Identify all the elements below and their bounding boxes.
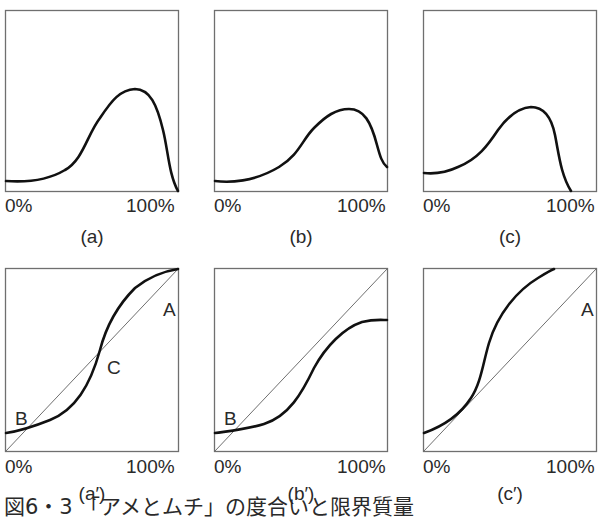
- point-label-a: A: [163, 300, 176, 319]
- chart-b: [214, 10, 388, 192]
- panel-label-c-prime: (c′): [450, 484, 570, 503]
- distribution-curve: [424, 107, 571, 191]
- figure-caption: 図6・3 「アメとムチ」の度合いと限界質量: [4, 497, 414, 518]
- chart-b-prime: [214, 268, 388, 452]
- point-label-c: C: [107, 358, 121, 377]
- chart-c-prime: [423, 268, 597, 452]
- cumulative-curve: [6, 269, 178, 433]
- panel-label-a: (a): [32, 227, 152, 246]
- plot-frame: [424, 11, 597, 192]
- diagonal-line: [215, 269, 387, 451]
- panel-a: [5, 10, 179, 192]
- x-tick-0: 0%: [423, 196, 450, 215]
- cumulative-curve: [424, 269, 554, 433]
- panel-a-prime: A C B: [5, 268, 179, 452]
- panel-label-c: (c): [450, 227, 570, 246]
- x-tick-100: 100%: [126, 196, 175, 215]
- x-tick-100: 100%: [337, 457, 386, 476]
- point-label-b: B: [15, 409, 28, 428]
- diagonal-line: [6, 269, 178, 451]
- distribution-curve: [6, 89, 178, 191]
- x-tick-100: 100%: [337, 196, 386, 215]
- cumulative-curve: [215, 320, 387, 433]
- panel-c-prime: A: [423, 268, 597, 452]
- distribution-curve: [215, 109, 387, 182]
- x-tick-0: 0%: [423, 457, 450, 476]
- x-tick-0: 0%: [214, 196, 241, 215]
- panel-b: [214, 10, 388, 192]
- plot-frame: [215, 11, 388, 192]
- chart-c: [423, 10, 597, 192]
- chart-a: [5, 10, 179, 192]
- panel-c: [423, 10, 597, 192]
- panel-label-b: (b): [241, 227, 361, 246]
- panel-b-prime: B: [214, 268, 388, 452]
- x-tick-100: 100%: [126, 457, 175, 476]
- point-label-a: A: [581, 300, 594, 319]
- x-tick-100: 100%: [546, 457, 595, 476]
- x-tick-0: 0%: [5, 457, 32, 476]
- x-tick-0: 0%: [5, 196, 32, 215]
- x-tick-100: 100%: [546, 196, 595, 215]
- x-tick-0: 0%: [214, 457, 241, 476]
- chart-a-prime: [5, 268, 179, 452]
- point-label-b: B: [224, 409, 237, 428]
- diagonal-line: [424, 269, 596, 451]
